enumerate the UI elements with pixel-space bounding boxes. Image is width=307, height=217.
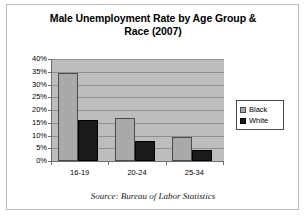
x-axis-tick-mark (223, 162, 224, 165)
chart-title-line-2: Race (2007) (19, 25, 287, 38)
legend-label: White (249, 116, 268, 125)
x-axis-tick-mark (108, 162, 109, 165)
bar-white-20-24 (135, 141, 155, 161)
x-axis-tick-label-16-19: 16-19 (51, 168, 108, 177)
y-axis-tick-labels: 0%5%10%15%20%25%30%35%40% (21, 53, 47, 167)
bar-white-16-19 (78, 120, 98, 161)
x-axis-tick-labels: 16-1920-2425-34 (51, 168, 224, 180)
chart-title: Male Unemployment Rate by Age Group & Ra… (19, 12, 287, 38)
y-axis-tick-label: 35% (21, 68, 47, 76)
chart-legend: BlackWhite (236, 100, 284, 130)
y-axis-tick-label: 30% (21, 81, 47, 89)
chart-title-line-1: Male Unemployment Rate by Age Group & (19, 12, 287, 25)
plot-area (51, 59, 224, 162)
y-axis-tick-label: 5% (21, 144, 47, 152)
legend-item-white[interactable]: White (240, 115, 280, 126)
legend-swatch-icon (240, 107, 246, 113)
bar-black-25-34 (172, 137, 192, 161)
x-axis-tick-mark (51, 162, 52, 165)
bar-black-16-19 (58, 73, 78, 161)
y-axis-tick-label: 0% (21, 157, 47, 165)
x-axis-tick-label-25-34: 25-34 (166, 168, 223, 177)
y-axis-tick-label: 40% (21, 55, 47, 63)
x-axis-tick-label-20-24: 20-24 (108, 168, 165, 177)
y-axis-tick-label: 25% (21, 93, 47, 101)
x-axis-tick-marks (51, 162, 224, 166)
y-axis-tick-label: 10% (21, 132, 47, 140)
source-note: Source: Bureau of Labor Statistics (19, 191, 287, 201)
bars-layer (52, 59, 224, 161)
chart-figure-frame: Male Unemployment Rate by Age Group & Ra… (6, 4, 299, 210)
legend-item-black[interactable]: Black (240, 104, 280, 115)
x-axis-tick-mark (166, 162, 167, 165)
y-axis-tick-label: 15% (21, 119, 47, 127)
bar-white-25-34 (192, 150, 212, 161)
bar-black-20-24 (115, 118, 135, 161)
y-axis-tick-label: 20% (21, 106, 47, 114)
legend-label: Black (249, 105, 267, 114)
legend-swatch-icon (240, 118, 246, 124)
